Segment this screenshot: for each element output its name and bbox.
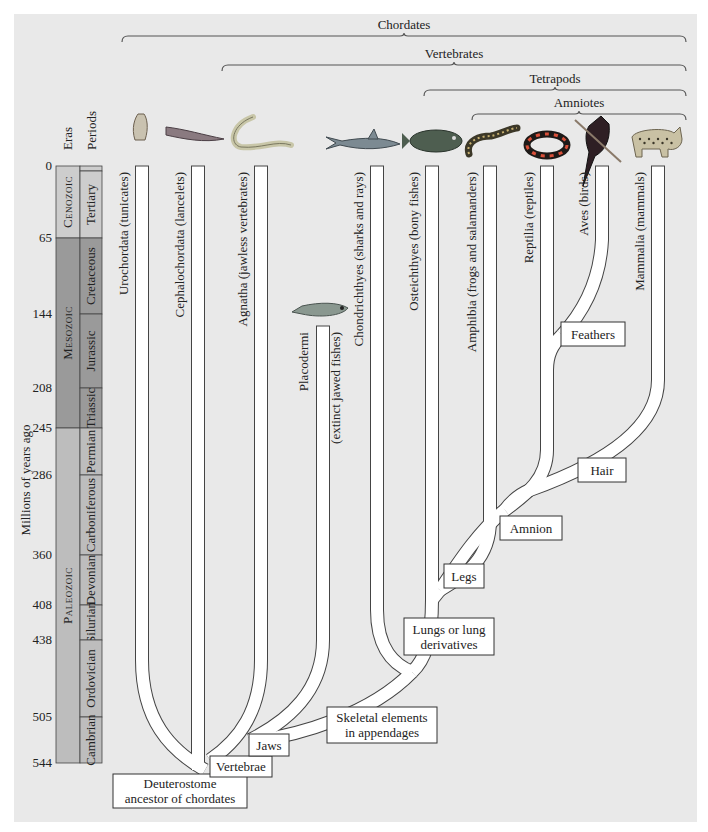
period-label: Jurassic bbox=[83, 330, 98, 371]
character-label: Hair bbox=[590, 463, 614, 478]
clade-label: Tetrapods bbox=[529, 71, 580, 86]
character-label: in appendages bbox=[345, 725, 419, 740]
character-box: Vertebrae bbox=[210, 756, 272, 777]
character-box: Skeletal elementsin appendages bbox=[327, 707, 437, 743]
era-label: Mesozoic bbox=[60, 306, 75, 360]
character-label: Lungs or lung bbox=[413, 622, 486, 637]
clade-bracket bbox=[122, 33, 686, 42]
period-label: Carboniferous bbox=[83, 478, 98, 552]
period-label: Silurian bbox=[83, 601, 98, 643]
taxon-label: Agnatha (jawless vertebrates) bbox=[235, 172, 250, 327]
period-label: Permian bbox=[83, 429, 98, 473]
eras-header: Eras bbox=[60, 127, 75, 150]
character-box: Lungs or lungderivatives bbox=[404, 618, 494, 655]
taxon-label: Cephalochordata (lancelets) bbox=[172, 172, 187, 317]
salamander-icon bbox=[468, 128, 517, 154]
taxon-label: Aves (birds) bbox=[576, 172, 591, 236]
clade-bracket bbox=[472, 111, 686, 120]
time-tick: 208 bbox=[33, 380, 53, 395]
time-tick: 0 bbox=[46, 158, 53, 173]
taxon-label: Chondrichthyes (sharks and rays) bbox=[351, 172, 366, 346]
character-label: Skeletal elements bbox=[336, 710, 427, 725]
era-label: Paleozoic bbox=[60, 567, 75, 624]
extinct-taxon-label: Placodermi bbox=[296, 332, 311, 392]
clade-label: Chordates bbox=[378, 17, 431, 32]
shark-icon bbox=[326, 129, 400, 149]
time-tick: 505 bbox=[33, 709, 53, 724]
clade-label: Amniotes bbox=[554, 95, 605, 110]
snake-icon bbox=[527, 134, 567, 156]
period-cell bbox=[80, 166, 102, 171]
time-tick: 360 bbox=[33, 547, 53, 562]
character-box: Hair bbox=[578, 458, 626, 482]
phylogeny-diagram: ChordatesVertebratesTetrapodsAmniotes Ce… bbox=[0, 0, 708, 832]
character-box: Deuterostomeancestor of chordates bbox=[113, 774, 247, 808]
lancelet-icon bbox=[166, 127, 224, 141]
taxon-label: Reptilia (reptiles) bbox=[521, 172, 536, 263]
character-box: Legs bbox=[444, 564, 484, 588]
era-label: Cenozoic bbox=[60, 176, 75, 228]
period-label: Cretaceous bbox=[83, 247, 98, 305]
lamprey-icon bbox=[234, 117, 291, 147]
taxon-label: Mammalia (mammals) bbox=[632, 172, 647, 291]
taxon-label: Urochordata (tunicates) bbox=[116, 172, 131, 295]
bony-fish-icon bbox=[402, 130, 462, 152]
time-tick: 245 bbox=[33, 420, 53, 435]
character-box: Amnion bbox=[500, 516, 562, 540]
cat-icon bbox=[632, 127, 682, 157]
character-box: Feathers bbox=[561, 322, 625, 346]
time-tick: 286 bbox=[33, 467, 53, 482]
clade-bracket bbox=[222, 62, 686, 71]
character-label: ancestor of chordates bbox=[125, 791, 235, 806]
period-label: Tertiary bbox=[83, 184, 98, 225]
periods-header: Periods bbox=[84, 111, 99, 150]
character-label: Feathers bbox=[571, 327, 615, 342]
time-tick: 144 bbox=[33, 306, 53, 321]
period-label: Triassic bbox=[83, 387, 98, 428]
character-label: Deuterostome bbox=[144, 776, 217, 791]
axis-label: Millions of years ago bbox=[18, 425, 33, 536]
character-label: Jaws bbox=[256, 738, 281, 753]
character-label: Legs bbox=[451, 569, 476, 584]
clade-brackets: ChordatesVertebratesTetrapodsAmniotes bbox=[122, 17, 686, 120]
character-label: Amnion bbox=[510, 521, 553, 536]
period-label: Ordovician bbox=[83, 649, 98, 708]
period-label: Devonian bbox=[83, 554, 98, 605]
time-tick: 408 bbox=[33, 597, 53, 612]
taxon-label: Osteichthyes (bony fishes) bbox=[406, 172, 421, 311]
branch bbox=[432, 590, 440, 600]
time-tick: 544 bbox=[33, 755, 53, 770]
clade-label: Vertebrates bbox=[425, 46, 483, 61]
time-tick: 65 bbox=[39, 230, 52, 245]
placoderm-icon bbox=[292, 303, 348, 316]
tunicate-icon bbox=[133, 114, 147, 140]
taxon-label: Amphibia (frogs and salamanders) bbox=[464, 172, 479, 352]
character-box: Jaws bbox=[249, 734, 289, 756]
time-tick: 438 bbox=[33, 632, 53, 647]
period-label: Cambrian bbox=[83, 714, 98, 766]
character-label: Vertebrae bbox=[216, 759, 266, 774]
extinct-taxon-sublabel: (extinct jawed fishes) bbox=[328, 332, 343, 444]
character-label: derivatives bbox=[420, 637, 477, 652]
geologic-timescale: CenozoicMesozoicPaleozoicTertiaryCretace… bbox=[18, 111, 102, 770]
